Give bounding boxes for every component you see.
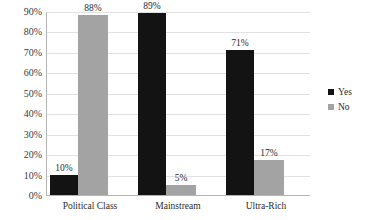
bar-group-mainstream: 89% 5% [135,12,223,195]
x-axis-category-label-political-class: Political Class [46,201,134,212]
bar-group-ultra-rich: 71% 17% [223,12,311,195]
x-axis-category-label-mainstream: Mainstream [134,201,222,212]
bar-ultra-rich-no[interactable] [254,160,284,195]
bar-chart: 90% 80% 70% 60% 50% 40% 30% 20% 10% 0% 1… [0,0,365,220]
bar-value-label: 10% [44,163,84,173]
y-tick-label: 80% [0,27,42,37]
legend-label: Yes [338,87,352,97]
bar-value-label: 71% [220,38,260,48]
bar-group-political-class: 10% 88% [47,12,135,195]
y-axis: 90% 80% 70% 60% 50% 40% 30% 20% 10% 0% [0,12,42,196]
bar-mainstream-no[interactable] [166,185,196,195]
bar-political-class-yes[interactable] [50,175,78,195]
y-tick-label: 70% [0,48,42,58]
bar-value-label: 88% [73,3,113,13]
x-axis-category-label-ultra-rich: Ultra-Rich [222,201,310,212]
y-tick-label: 30% [0,130,42,140]
legend-label: No [338,102,350,112]
y-tick-label: 90% [0,7,42,17]
legend-item-yes[interactable]: Yes [328,84,365,99]
legend-swatch-icon [328,89,334,95]
bar-value-label: 5% [161,173,201,183]
legend: Yes No [328,84,365,114]
bar-mainstream-yes[interactable] [138,13,166,195]
legend-swatch-icon [328,104,334,110]
y-tick-label: 20% [0,150,42,160]
y-tick-label: 50% [0,89,42,99]
bar-value-label: 89% [132,1,172,11]
legend-item-no[interactable]: No [328,99,365,114]
y-tick-label: 40% [0,109,42,119]
plot-area: 10% 88% 89% 5% 71% 17% [46,12,310,196]
y-tick-label: 10% [0,171,42,181]
bar-ultra-rich-yes[interactable] [226,50,254,195]
bar-value-label: 17% [249,148,289,158]
y-tick-label: 0% [0,191,42,201]
y-tick-label: 60% [0,68,42,78]
